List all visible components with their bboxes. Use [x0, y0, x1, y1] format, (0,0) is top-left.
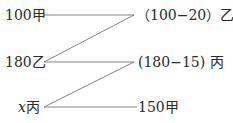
right-label-1: （100−20）乙: [136, 7, 233, 23]
right-label-3: 150甲: [138, 99, 179, 115]
line-diag2: [44, 62, 134, 107]
right-label-2: (180−15) 丙: [138, 54, 224, 70]
left-label-2: 180乙: [5, 54, 46, 70]
left-label-3: x丙: [18, 99, 40, 115]
left-label-1: 100甲: [5, 7, 46, 23]
line-diag1: [44, 15, 134, 62]
